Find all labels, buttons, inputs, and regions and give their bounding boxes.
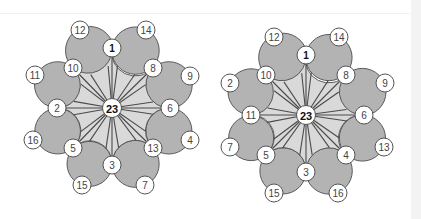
node-label: 15 [268,188,280,199]
outer-node-12: 12 [265,28,283,46]
outer-node-9: 9 [181,67,199,85]
inner-node-3: 3 [103,156,121,174]
inner-node-6: 6 [161,99,179,117]
node-label: 8 [150,63,156,74]
node-label: 6 [361,110,367,121]
center-node: 23 [103,99,122,118]
outer-node-15: 15 [73,176,91,194]
node-label: 9 [187,71,193,82]
outer-node-12: 12 [71,21,89,39]
outer-node-11: 11 [26,66,44,84]
outer-node-7: 7 [136,176,154,194]
flower-diagram-left: 1861335210149471516111223 [24,21,199,194]
node-label: 12 [74,25,86,36]
outer-node-14: 14 [137,21,155,39]
node-label: 7 [227,142,233,153]
center-node: 23 [297,106,316,125]
inner-node-6: 6 [355,106,373,124]
inner-node-1: 1 [297,46,315,64]
node-label: 11 [30,70,41,81]
node-label: 10 [67,63,79,74]
outer-node-9: 9 [376,74,394,92]
node-label: 5 [263,150,269,161]
outer-node-7: 7 [221,138,239,156]
node-label: 15 [76,180,88,191]
inner-node-13: 13 [144,139,162,157]
outer-node-4: 4 [181,131,199,149]
node-label: 4 [187,135,193,146]
inner-node-5: 5 [64,139,82,157]
outer-node-15: 15 [265,184,283,202]
node-label: 7 [142,180,148,191]
node-label: 4 [343,150,349,161]
outer-node-13: 13 [375,138,393,156]
magic-flower-diagrams: 1861335210149471516111223186435111014913… [0,0,421,219]
node-label: 13 [378,142,390,153]
inner-node-5: 5 [257,146,275,164]
flower-diagram-right: 1864351110149131615721223 [221,28,394,202]
node-label: 9 [382,78,388,89]
node-label: 16 [27,135,39,146]
inner-node-2: 2 [48,99,66,117]
node-label: 5 [70,143,76,154]
center-label: 23 [300,110,312,122]
node-label: 13 [147,143,159,154]
outer-node-2: 2 [221,74,239,92]
node-label: 2 [227,78,233,89]
node-label: 8 [343,70,349,81]
node-label: 1 [109,43,115,54]
outer-node-16: 16 [329,184,347,202]
node-label: 1 [303,50,309,61]
node-label: 11 [246,110,257,121]
node-label: 6 [167,103,173,114]
outer-node-16: 16 [24,131,42,149]
inner-node-11: 11 [242,106,260,124]
node-label: 3 [303,167,309,178]
inner-node-10: 10 [257,66,275,84]
node-label: 14 [140,25,152,36]
inner-node-1: 1 [103,39,121,57]
node-label: 14 [333,32,345,43]
inner-node-10: 10 [64,59,82,77]
outer-node-14: 14 [330,28,348,46]
inner-node-3: 3 [297,163,315,181]
center-label: 23 [106,103,118,115]
inner-node-8: 8 [144,59,162,77]
node-label: 2 [54,103,60,114]
node-label: 12 [268,32,280,43]
inner-node-8: 8 [337,66,355,84]
inner-node-4: 4 [337,146,355,164]
node-label: 16 [332,188,344,199]
node-label: 3 [109,160,115,171]
node-label: 10 [260,70,272,81]
